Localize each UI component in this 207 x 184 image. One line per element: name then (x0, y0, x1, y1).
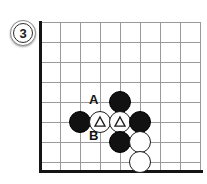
go-stone-white[interactable] (129, 131, 151, 153)
go-stone-black[interactable] (69, 111, 91, 133)
grid-line-horizontal-2 (40, 62, 200, 63)
grid-line-horizontal-7 (40, 162, 200, 163)
go-stone-black[interactable] (129, 111, 151, 133)
point-label-b: B (89, 129, 98, 142)
go-stone-white-marked[interactable] (109, 111, 131, 133)
go-stone-black[interactable] (109, 131, 131, 153)
triangle-icon (110, 112, 130, 132)
grid-line-horizontal-0 (40, 22, 200, 23)
board-bottom-edge (39, 170, 203, 173)
grid-line-horizontal-3 (40, 82, 200, 83)
grid-line-vertical-7 (180, 22, 181, 170)
go-diagram-figure: AB 3 (0, 0, 207, 184)
grid-line-vertical-2 (80, 22, 81, 170)
grid-line-horizontal-1 (40, 42, 200, 43)
go-stone-black[interactable] (109, 91, 131, 113)
go-stone-white[interactable] (129, 151, 151, 173)
point-label-a: A (89, 93, 98, 106)
grid-line-vertical-3 (100, 22, 101, 170)
grid-line-vertical-6 (160, 22, 161, 170)
board-left-edge (39, 21, 42, 172)
step-number-label: 3 (11, 21, 35, 45)
grid-line-vertical-1 (60, 22, 61, 170)
grid-line-vertical-8 (200, 22, 201, 170)
step-number-badge: 3 (10, 20, 36, 46)
